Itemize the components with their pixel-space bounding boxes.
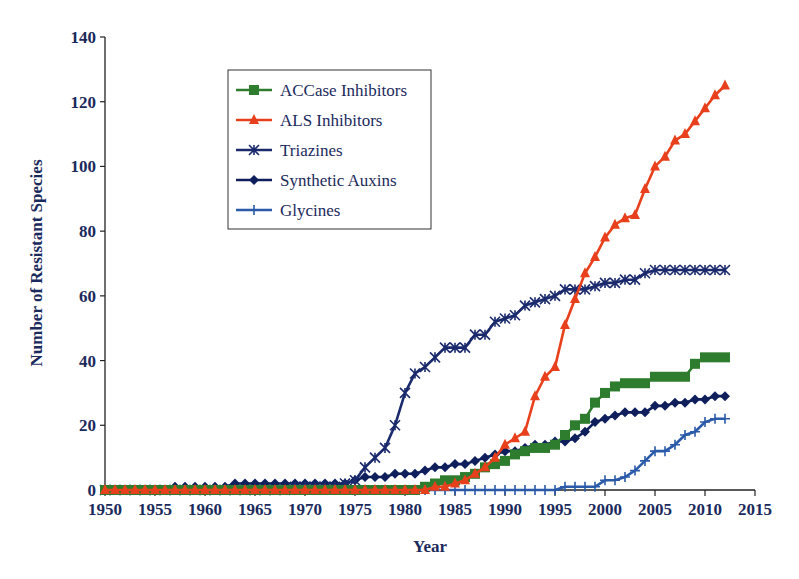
legend-label: Triazines bbox=[280, 141, 343, 160]
x-tick-label: 2015 bbox=[738, 500, 772, 519]
x-tick-label: 1970 bbox=[288, 500, 322, 519]
y-tick-label: 20 bbox=[79, 416, 96, 435]
x-tick-label: 1985 bbox=[438, 500, 472, 519]
x-tick-label: 1960 bbox=[188, 500, 222, 519]
y-tick-label: 40 bbox=[79, 352, 96, 371]
x-axis-title: Year bbox=[413, 537, 447, 556]
legend-label: Glycines bbox=[280, 201, 340, 220]
y-tick-label: 0 bbox=[88, 481, 97, 500]
legend-label: ALS Inhibitors bbox=[280, 111, 382, 130]
y-axis-title: Number of Resistant Species bbox=[27, 159, 46, 366]
x-tick-label: 2000 bbox=[588, 500, 622, 519]
x-tick-label: 1995 bbox=[538, 500, 572, 519]
y-tick-label: 60 bbox=[79, 287, 96, 306]
herbicide-resistance-chart: 0204060801001201401950195519601965197019… bbox=[0, 0, 799, 579]
x-tick-label: 2005 bbox=[638, 500, 672, 519]
y-tick-label: 120 bbox=[71, 93, 97, 112]
legend-label: ACCase Inhibitors bbox=[280, 81, 407, 100]
legend: ACCase InhibitorsALS InhibitorsTriazines… bbox=[228, 70, 431, 229]
x-tick-label: 1975 bbox=[338, 500, 372, 519]
y-tick-label: 80 bbox=[79, 222, 96, 241]
square-marker-icon bbox=[249, 85, 259, 95]
legend-label: Synthetic Auxins bbox=[280, 171, 397, 190]
x-tick-label: 1955 bbox=[138, 500, 172, 519]
x-tick-label: 1990 bbox=[488, 500, 522, 519]
y-tick-label: 100 bbox=[71, 157, 97, 176]
series-synthetic-auxins bbox=[100, 391, 730, 495]
x-tick-label: 1950 bbox=[88, 500, 122, 519]
x-tick-label: 1965 bbox=[238, 500, 272, 519]
y-tick-label: 140 bbox=[71, 28, 97, 47]
x-tick-label: 1980 bbox=[388, 500, 422, 519]
x-tick-label: 2010 bbox=[688, 500, 722, 519]
